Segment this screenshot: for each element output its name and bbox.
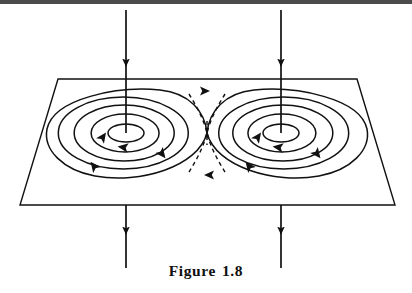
caption-number: 1.8 <box>222 262 243 279</box>
figure-container: Figure1.8 <box>0 0 412 293</box>
figure-caption: Figure1.8 <box>0 262 412 280</box>
vortex-field-diagram <box>0 0 412 293</box>
caption-label: Figure <box>169 262 216 279</box>
